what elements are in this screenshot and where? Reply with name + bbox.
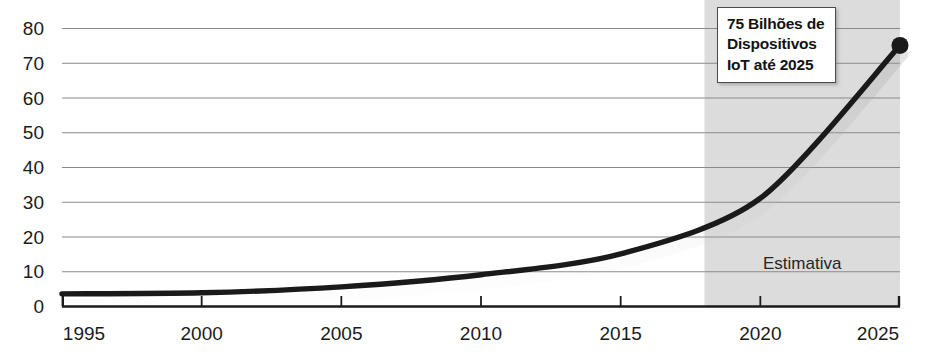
x-tick-label: 2000 — [172, 324, 232, 343]
x-tick-label: 2025 — [848, 324, 908, 343]
x-tick-label: 2010 — [451, 324, 511, 343]
y-tick-label: 40 — [0, 158, 44, 177]
y-tick-label: 30 — [0, 193, 44, 212]
y-tick-label: 10 — [0, 262, 44, 281]
callout-annotation-box: 75 Bilhões de Dispositivos IoT até 2025 — [717, 7, 836, 83]
x-tick-label: 2020 — [730, 324, 790, 343]
y-tick-label: 60 — [0, 89, 44, 108]
callout-line-1: 75 Bilhões de — [727, 14, 827, 34]
y-tick-label: 70 — [0, 54, 44, 73]
y-tick-label: 20 — [0, 228, 44, 247]
y-tick-label: 0 — [0, 297, 44, 316]
y-tick-label: 80 — [0, 19, 44, 38]
y-tick-label: 50 — [0, 123, 44, 142]
x-tick-label: 2015 — [591, 324, 651, 343]
estimate-region-label: Estimativa — [757, 254, 847, 274]
x-tick-label: 1995 — [54, 324, 114, 343]
callout-line-2: Dispositivos — [727, 34, 827, 54]
callout-line-3: IoT até 2025 — [727, 55, 827, 75]
endpoint-marker — [892, 37, 909, 54]
x-tick-label: 2005 — [311, 324, 371, 343]
iot-devices-line-chart: 80706050403020100 1995200020052010201520… — [0, 0, 928, 360]
